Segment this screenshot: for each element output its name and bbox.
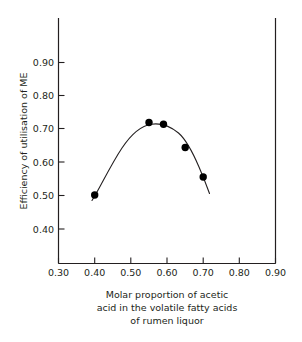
x-tick-label-0.30: 0.30 (48, 267, 69, 278)
figure: 0.90 0.80 0.70 0.60 0.50 0.40 0.30 0.40 … (0, 0, 302, 342)
y-tick-label-0.60: 0.60 (33, 157, 54, 168)
y-tick-label-0.70: 0.70 (33, 123, 54, 134)
data-point-1 (91, 191, 98, 198)
x-tick-label-0.50: 0.50 (120, 267, 141, 278)
y-tick-label-0.50: 0.50 (33, 190, 54, 201)
y-tick-label-0.80: 0.80 (33, 90, 54, 101)
x-tick-label-0.60: 0.60 (156, 267, 177, 278)
x-axis-title-line-3: of rumen liquor (130, 315, 203, 326)
y-axis-title: Efficiency of utilisation of ME (18, 73, 29, 210)
x-axis-title-line-2: acid in the volatile fatty acids (97, 302, 238, 313)
data-point-2 (145, 119, 152, 126)
x-tick-label-0.40: 0.40 (84, 267, 105, 278)
chart-canvas: 0.90 0.80 0.70 0.60 0.50 0.40 0.30 0.40 … (0, 0, 302, 342)
data-point-3 (160, 121, 167, 128)
x-tick-label-0.90: 0.90 (265, 267, 286, 278)
data-point-4 (182, 144, 189, 151)
x-axis-title-line-1: Molar proportion of acetic (106, 289, 229, 300)
y-tick-label-0.40: 0.40 (33, 224, 54, 235)
x-tick-label-0.80: 0.80 (229, 267, 250, 278)
data-point-5 (200, 173, 207, 180)
x-tick-label-0.70: 0.70 (193, 267, 214, 278)
y-tick-label-0.90: 0.90 (33, 57, 54, 68)
